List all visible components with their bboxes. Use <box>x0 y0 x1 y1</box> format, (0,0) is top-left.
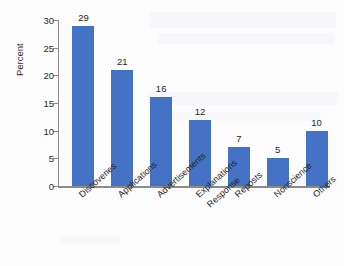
y-axis-tick-label: 20 <box>43 70 54 81</box>
y-axis-tick-label: 5 <box>49 153 54 164</box>
y-axis-tick-label: 25 <box>43 42 54 53</box>
bar: 10 <box>306 131 328 186</box>
y-axis-line <box>58 20 59 186</box>
bar-chart-figure: Percent 051015202530 292116127510 Discov… <box>0 0 344 266</box>
y-axis-tick-label: 15 <box>43 98 54 109</box>
bar-value-label: 5 <box>275 144 280 155</box>
scan-artifact <box>60 236 120 244</box>
bar-value-label: 12 <box>195 106 206 117</box>
bar-value-label: 29 <box>78 12 89 23</box>
bar-value-label: 7 <box>236 133 241 144</box>
bar-value-label: 10 <box>311 117 322 128</box>
y-axis-tick-label: 30 <box>43 15 54 26</box>
y-axis-tick-label: 10 <box>43 125 54 136</box>
bar: 29 <box>72 26 94 186</box>
bar-value-label: 16 <box>156 83 167 94</box>
bar-value-label: 21 <box>117 56 128 67</box>
bar: 16 <box>150 97 172 186</box>
y-axis-title: Percent <box>14 43 25 76</box>
y-axis-tick-label: 0 <box>49 181 54 192</box>
